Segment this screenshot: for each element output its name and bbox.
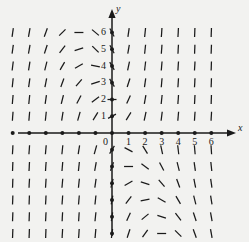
- slope-segment: [28, 28, 30, 37]
- x-tick-label: 3: [159, 137, 164, 147]
- slope-segment: [28, 45, 30, 54]
- slope-segment: [75, 64, 83, 69]
- slope-segment: [178, 78, 179, 87]
- slope-segment: [78, 179, 79, 188]
- x-axis-point: [44, 131, 48, 135]
- slope-segment: [127, 95, 131, 103]
- slope-segment: [161, 95, 162, 104]
- x-axis-point: [127, 131, 131, 135]
- y-axis-point: [110, 198, 114, 202]
- slope-segment: [193, 229, 196, 237]
- y-axis-point: [110, 232, 114, 236]
- slope-segment: [128, 62, 130, 71]
- slope-segment: [144, 78, 145, 87]
- x-axis-point: [160, 131, 164, 135]
- direction-field-figure: 0123456654321xy: [0, 0, 249, 242]
- slope-segment: [157, 215, 166, 218]
- slope-segment: [92, 30, 99, 36]
- slope-segment: [76, 79, 82, 86]
- slope-segment: [45, 95, 46, 104]
- slope-segment: [125, 181, 133, 186]
- x-tick-label: 2: [143, 137, 148, 147]
- slope-segment: [159, 180, 165, 187]
- slope-segment: [145, 45, 146, 54]
- slope-segment: [127, 78, 130, 87]
- slope-segment: [95, 212, 96, 221]
- slope-segment: [141, 164, 148, 169]
- slope-segment: [12, 112, 13, 121]
- slope-segment: [44, 28, 47, 36]
- x-axis-point: [93, 131, 97, 135]
- x-axis-point: [193, 131, 197, 135]
- slope-segment: [194, 179, 196, 188]
- slope-segment: [12, 62, 13, 71]
- x-tick-label: 6: [209, 137, 214, 147]
- y-tick-label: 2: [101, 94, 106, 104]
- slope-segment: [127, 213, 131, 221]
- y-axis-point: [110, 148, 114, 152]
- slope-segment: [91, 65, 100, 67]
- slope-segment: [79, 229, 80, 238]
- slope-segment: [59, 29, 65, 35]
- slope-segment: [91, 81, 100, 84]
- slope-segment: [177, 179, 180, 187]
- slope-segment: [145, 28, 146, 37]
- slope-segment: [45, 179, 46, 188]
- slope-segment: [61, 79, 64, 87]
- x-tick-label: 4: [176, 137, 181, 147]
- slope-segment: [145, 62, 146, 71]
- x-axis-point: [209, 131, 213, 135]
- slope-segment: [12, 28, 13, 37]
- slope-segment: [29, 78, 30, 87]
- slope-segment: [178, 112, 179, 121]
- origin-label: 0: [103, 137, 108, 147]
- slope-segment: [78, 112, 80, 121]
- slope-segment: [78, 145, 79, 154]
- slope-segment: [211, 162, 212, 171]
- slope-segment: [211, 196, 212, 205]
- slope-segment: [141, 199, 150, 201]
- slope-segment: [175, 230, 181, 236]
- slope-segment: [178, 95, 179, 104]
- slope-segment: [128, 45, 130, 54]
- y-axis-point: [110, 215, 114, 219]
- slope-segment: [62, 196, 63, 205]
- slope-segment: [161, 112, 162, 121]
- x-axis-point: [77, 131, 81, 135]
- y-axis-point: [110, 81, 114, 85]
- slope-segment: [178, 62, 179, 71]
- slope-segment: [158, 198, 166, 203]
- slope-segment: [161, 62, 162, 71]
- y-axis-point: [110, 64, 114, 68]
- slope-segment: [160, 163, 164, 171]
- slope-segment: [161, 78, 162, 87]
- y-axis-point: [110, 165, 114, 169]
- slope-segment: [95, 229, 96, 238]
- y-axis-point: [110, 47, 114, 51]
- slope-segment: [29, 112, 30, 121]
- slope-segment: [77, 96, 81, 104]
- slope-segment: [79, 212, 80, 221]
- slope-segment: [12, 78, 13, 87]
- slope-segment: [194, 162, 195, 171]
- y-tick-label: 5: [101, 44, 106, 54]
- slope-segment: [194, 196, 196, 205]
- slope-segment: [194, 112, 195, 121]
- y-axis-point: [110, 181, 114, 185]
- y-axis-arrowhead: [108, 9, 115, 18]
- slope-segment: [143, 146, 148, 154]
- slope-segment: [126, 196, 132, 203]
- slope-segment: [144, 112, 146, 121]
- x-axis-arrowhead: [227, 129, 236, 136]
- slope-segment: [62, 145, 63, 154]
- slope-segment: [60, 62, 65, 70]
- slope-segment: [94, 145, 96, 154]
- x-axis-point: [11, 131, 15, 135]
- slope-segment: [161, 28, 162, 37]
- y-tick-label: 6: [101, 27, 106, 37]
- slope-segment: [95, 179, 96, 188]
- y-axis-label: y: [116, 4, 120, 14]
- slope-segment: [45, 162, 46, 171]
- y-tick-label: 4: [101, 61, 106, 71]
- slope-segment: [95, 162, 97, 171]
